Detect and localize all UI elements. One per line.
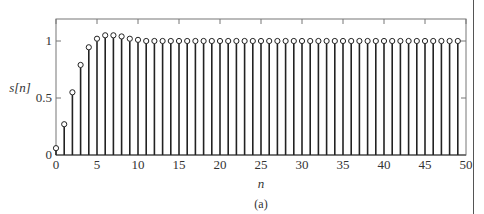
stem (135, 37, 140, 155)
stem (111, 33, 116, 155)
stem (340, 38, 345, 155)
x-tick-label: 0 (53, 157, 60, 172)
stem (168, 38, 173, 155)
stem (349, 38, 354, 155)
x-tick-label: 20 (214, 157, 227, 172)
page-border-line (473, 0, 474, 214)
stem (176, 38, 181, 155)
stem (250, 38, 255, 155)
x-tick-label: 45 (419, 157, 432, 172)
stem (53, 146, 58, 155)
stem (390, 38, 395, 155)
stem (308, 38, 313, 155)
stem (373, 38, 378, 155)
stem (62, 122, 67, 155)
x-tick-label: 50 (460, 157, 473, 172)
stem (70, 90, 75, 155)
stem (78, 62, 83, 155)
stem (242, 38, 247, 155)
stem (127, 36, 132, 155)
stem (422, 38, 427, 155)
stem (160, 38, 165, 155)
stem (324, 38, 329, 155)
stem (447, 38, 452, 155)
stem (193, 38, 198, 155)
stem (431, 38, 436, 155)
stem (185, 38, 190, 155)
stem (455, 38, 460, 155)
stem (144, 38, 149, 155)
stem (217, 38, 222, 155)
stem (439, 38, 444, 155)
stem (283, 38, 288, 155)
x-axis-label: n (258, 176, 265, 191)
x-tick-label: 10 (132, 157, 145, 172)
stem-plot: 05101520253035404550 00.51 n s[n] (a) (0, 0, 484, 214)
stem (267, 38, 272, 155)
stem (103, 33, 108, 155)
stem (258, 38, 263, 155)
stem (201, 38, 206, 155)
stem (94, 36, 99, 155)
stem (86, 45, 91, 155)
y-axis-label: s[n] (9, 80, 31, 95)
y-tick-label: 0 (46, 147, 53, 162)
stem (119, 34, 124, 155)
stem (234, 38, 239, 155)
stem-series (53, 33, 460, 155)
stem (332, 38, 337, 155)
stem (414, 38, 419, 155)
y-tick-label: 1 (46, 33, 53, 48)
x-tick-labels: 05101520253035404550 (53, 157, 473, 172)
stem (365, 38, 370, 155)
stem (152, 38, 157, 155)
x-tick-label: 30 (296, 157, 309, 172)
stem (299, 38, 304, 155)
x-tick-label: 35 (337, 157, 350, 172)
x-tick-label: 25 (255, 157, 268, 172)
figure-caption: (a) (254, 197, 267, 211)
stem (381, 38, 386, 155)
stem (275, 38, 280, 155)
stem (406, 38, 411, 155)
y-tick-labels: 00.51 (36, 33, 52, 162)
y-tick-label: 0.5 (36, 90, 52, 105)
stem (398, 38, 403, 155)
stem (209, 38, 214, 155)
stem (357, 38, 362, 155)
x-tick-label: 15 (173, 157, 186, 172)
stem (316, 38, 321, 155)
stem (226, 38, 231, 155)
x-tick-label: 40 (378, 157, 391, 172)
stem (291, 38, 296, 155)
x-tick-label: 5 (94, 157, 101, 172)
